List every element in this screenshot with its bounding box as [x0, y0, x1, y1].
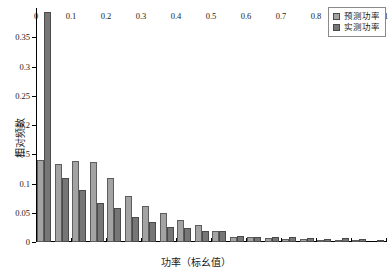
- y-tick-label: 0: [26, 238, 30, 247]
- bar-meas: [149, 222, 156, 242]
- legend-swatch-measured: [333, 24, 340, 31]
- bar-pred: [177, 220, 184, 242]
- x-tick-label: 0.1: [66, 12, 77, 21]
- bar-pred: [90, 162, 97, 242]
- bar-meas: [237, 236, 244, 242]
- bar-meas: [167, 227, 174, 242]
- y-tick-mark: [32, 125, 36, 126]
- y-tick-mark: [32, 96, 36, 97]
- bar-meas: [254, 237, 261, 242]
- bar-pred: [265, 238, 272, 242]
- y-tick-mark: [32, 213, 36, 214]
- bar-meas: [342, 238, 349, 242]
- bar-pred: [230, 237, 237, 242]
- x-tick-mark: [386, 238, 387, 242]
- legend-swatch-predicted: [333, 13, 340, 20]
- bar-pred: [107, 178, 114, 242]
- y-tick-mark: [32, 67, 36, 68]
- bar-pred: [352, 240, 359, 242]
- bar-meas: [44, 12, 51, 242]
- bar-meas: [289, 237, 296, 242]
- bar-meas: [359, 239, 366, 242]
- x-tick-label: 0.3: [136, 12, 147, 21]
- bar-meas: [272, 237, 279, 242]
- y-tick-label: 0.05: [15, 209, 30, 218]
- bar-meas: [184, 228, 191, 242]
- bar-meas: [324, 239, 331, 243]
- bar-meas: [202, 231, 209, 242]
- bar-meas: [219, 231, 226, 242]
- x-tick-label: 0: [34, 12, 38, 21]
- histogram-figure: 相对频数 00.050.10.150.20.250.30.35 00.10.20…: [0, 0, 392, 275]
- x-tick-label: 0.4: [171, 12, 182, 21]
- bar-pred: [125, 196, 132, 242]
- legend-label-measured: 实测功率: [344, 23, 380, 32]
- bar-meas: [62, 178, 69, 242]
- y-tick-label: 0.1: [19, 179, 30, 188]
- y-tick-label: 0.25: [15, 92, 30, 101]
- y-tick-mark: [32, 37, 36, 38]
- bar-pred: [195, 225, 202, 242]
- bar-pred: [247, 237, 254, 242]
- bar-pred: [160, 213, 167, 242]
- bar-pred: [72, 161, 79, 242]
- bar-meas: [377, 240, 384, 242]
- bar-pred: [317, 240, 324, 242]
- x-tick-label: 0.5: [206, 12, 217, 21]
- y-tick-label: 0.3: [19, 62, 30, 71]
- bar-pred: [300, 239, 307, 242]
- bar-pred: [335, 240, 342, 242]
- y-tick-mark: [32, 154, 36, 155]
- bar-pred: [55, 164, 62, 242]
- x-tick-label: 0.8: [311, 12, 322, 21]
- bar-pred: [142, 206, 149, 242]
- y-tick-label: 0.35: [15, 33, 30, 42]
- bar-meas: [132, 217, 139, 242]
- x-axis-title: 功率（标幺值）: [0, 258, 392, 268]
- bar-pred: [282, 239, 289, 242]
- bar-meas: [97, 203, 104, 242]
- bar-meas: [79, 190, 86, 242]
- x-tick-label: 0.6: [241, 12, 252, 21]
- y-tick-mark: [32, 184, 36, 185]
- bar-pred: [37, 160, 44, 242]
- y-tick-mark: [32, 242, 36, 243]
- y-tick-label: 0.15: [15, 150, 30, 159]
- bar-meas: [114, 208, 121, 243]
- chart-legend: 预测功率 实测功率: [328, 7, 386, 37]
- x-tick-label: 0.2: [101, 12, 112, 21]
- x-tick-label: 0.7: [276, 12, 287, 21]
- plot-area: 00.050.10.150.20.250.30.35 00.10.20.30.4…: [36, 8, 386, 242]
- legend-item-measured: 实测功率: [333, 22, 380, 33]
- y-tick-label: 0.2: [19, 121, 30, 130]
- legend-label-predicted: 预测功率: [344, 12, 380, 21]
- legend-item-predicted: 预测功率: [333, 11, 380, 22]
- bar-pred: [212, 231, 219, 242]
- bar-meas: [307, 238, 314, 242]
